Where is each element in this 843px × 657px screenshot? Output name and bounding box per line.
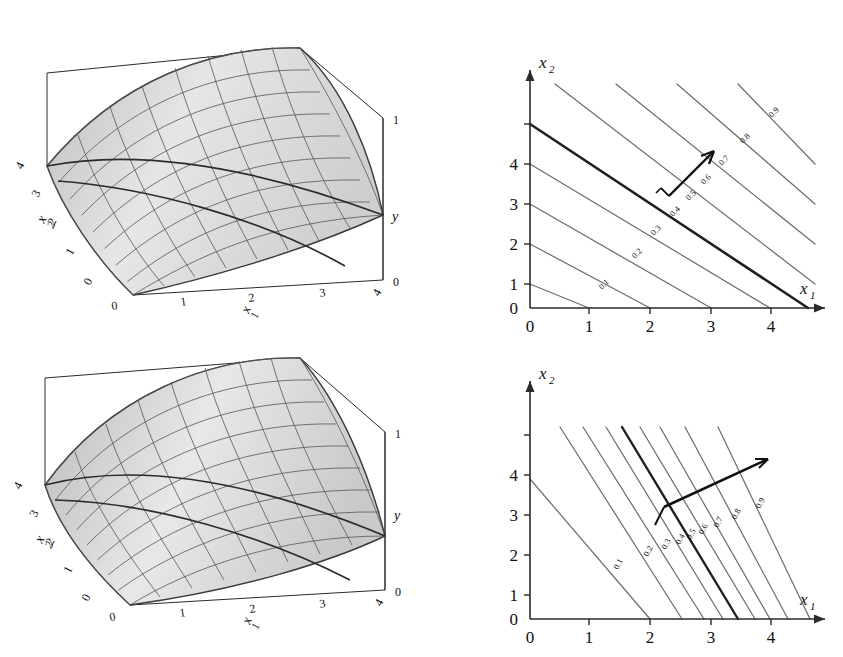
x-ticks-top: 0 1 2 3 4	[526, 317, 776, 336]
y-tick-1-bottom: 1	[395, 427, 401, 441]
y-ticks-top: 0 1 2 3 4	[510, 155, 519, 318]
y-ticks-bottom: 0 1 2 3 4	[510, 466, 519, 629]
x2-tick-4: 4	[12, 160, 27, 172]
contour-bold-05	[530, 124, 808, 308]
x-arrowhead-bottom	[814, 615, 825, 624]
x-axis-label-bottom-c: x	[799, 590, 808, 609]
contour-label-01-bottom: 0.1	[611, 557, 625, 571]
x-axis-label-top: x	[799, 279, 808, 298]
y-axis-label-top: x	[538, 53, 547, 72]
y-arrowhead-top	[526, 70, 535, 81]
surface-plot-bottom: 1 y 0 4 4 3 2 1 0 x 2 0 1 2 3 x 1	[0, 340, 450, 650]
contour-label-07-bottom: 0.7	[711, 515, 725, 529]
surface-plot-top: 1 y 0 4 4 3 2 1 0 x 2 0 1 2 3 x 1	[0, 18, 450, 340]
x1-tick-1: 1	[179, 294, 187, 309]
svg-text:4: 4	[510, 466, 519, 485]
y-axis-label: y	[390, 209, 399, 224]
contour-label-09: 0.9	[766, 105, 781, 120]
x-axis-sub-bottom-c: 1	[810, 600, 816, 612]
surface-mesh-top	[47, 47, 383, 295]
x-ticks-bottom: 0 1 2 3 4	[526, 628, 776, 647]
x2-tick-4-bottom: 4	[10, 480, 25, 492]
contour-label-05-bottom: 0.5	[684, 527, 698, 541]
svg-text:3: 3	[707, 317, 716, 336]
contour-label-07: 0.7	[716, 153, 731, 168]
contour-bottom-svg: 0.1 0.2 0.3 0.4 0.5 0.6 0.7 0.8 0.9 x 1	[470, 335, 843, 647]
y-tick-0-bottom: 0	[395, 585, 401, 599]
x1-tick-2: 2	[247, 290, 255, 305]
svg-text:0: 0	[526, 317, 535, 336]
svg-text:2: 2	[510, 235, 519, 254]
y-arrowhead-bottom	[526, 381, 535, 392]
gradient-arrow-bottom	[655, 459, 768, 525]
svg-text:2: 2	[646, 628, 655, 647]
contour-label-03-bottom: 0.3	[659, 537, 673, 551]
x2-tick-1: 1	[62, 246, 77, 258]
svg-text:2: 2	[646, 317, 655, 336]
x1-tick-1-bottom: 1	[178, 605, 186, 620]
y-tick-1: 1	[393, 113, 399, 127]
svg-text:3: 3	[707, 628, 716, 647]
surface-bottom-svg: 1 y 0 4 4 3 2 1 0 x 2 0 1 2 3 x 1	[0, 340, 450, 650]
svg-text:1: 1	[510, 275, 519, 294]
x1-tick-3: 3	[318, 285, 326, 300]
contour-lines-bottom	[530, 427, 810, 619]
svg-text:4: 4	[510, 155, 519, 174]
x2-tick-1-bottom: 1	[60, 564, 75, 576]
contour-labels-bottom: 0.1 0.2 0.3 0.4 0.5 0.6 0.7 0.8 0.9	[611, 496, 767, 571]
contour-label-03: 0.3	[648, 223, 663, 238]
contour-label-02-bottom: 0.2	[641, 544, 655, 558]
x-arrowhead-top	[814, 304, 825, 313]
x2-tick-0: 0	[80, 276, 95, 288]
y-axis-sub-top: 2	[549, 63, 555, 75]
x1-tick-3-bottom: 3	[318, 596, 326, 611]
svg-text:0: 0	[526, 628, 535, 647]
corner-tick-top: 4	[369, 287, 384, 299]
y-axis-label-bottom-c: x	[538, 364, 547, 383]
contour-label-09-bottom: 0.9	[753, 496, 767, 510]
x1-axis-sub: 1	[248, 310, 261, 319]
contour-label-01: 0.1	[596, 277, 611, 292]
contour-labels-top: 0.1 0.2 0.3 0.4 0.5 0.6 0.7 0.8 0.9	[596, 105, 781, 292]
surface-mesh-bottom	[45, 358, 385, 605]
svg-text:1: 1	[585, 628, 594, 647]
svg-text:0: 0	[510, 299, 519, 318]
y-axis-label-bottom: y	[392, 508, 401, 523]
x-axis-sub-top: 1	[810, 289, 816, 301]
svg-text:4: 4	[767, 317, 776, 336]
y-tick-0: 0	[393, 275, 399, 289]
contour-label-06: 0.6	[698, 172, 713, 187]
svg-text:2: 2	[510, 546, 519, 565]
contour-label-05: 0.5	[683, 188, 698, 203]
svg-text:3: 3	[510, 506, 519, 525]
contour-label-08-bottom: 0.8	[729, 507, 743, 521]
svg-text:4: 4	[767, 628, 776, 647]
x1-tick-0-bottom: 0	[108, 609, 116, 624]
contour-top-svg: 0.1 0.2 0.3 0.4 0.5 0.6 0.7 0.8 0.9	[470, 18, 843, 340]
y-axis-sub-bottom-c: 2	[549, 374, 555, 386]
contour-plot-top: 0.1 0.2 0.3 0.4 0.5 0.6 0.7 0.8 0.9	[470, 18, 843, 340]
svg-text:1: 1	[510, 586, 519, 605]
contour-plot-bottom: 0.1 0.2 0.3 0.4 0.5 0.6 0.7 0.8 0.9 x 1	[470, 335, 843, 647]
surface-top-svg: 1 y 0 4 4 3 2 1 0 x 2 0 1 2 3 x 1	[0, 18, 450, 340]
svg-text:1: 1	[585, 317, 594, 336]
x1-tick-2-bottom: 2	[248, 601, 256, 616]
svg-text:3: 3	[510, 195, 519, 214]
x2-tick-0-bottom: 0	[78, 592, 93, 604]
corner-tick-bottom: 4	[371, 597, 386, 609]
contour-label-02: 0.2	[629, 246, 644, 261]
x1-axis-sub-bottom: 1	[249, 621, 262, 630]
x2-tick-3-bottom: 3	[26, 508, 41, 520]
svg-text:0: 0	[510, 610, 519, 629]
x2-tick-3: 3	[28, 188, 43, 200]
x1-tick-0: 0	[110, 298, 118, 313]
contour-label-08: 0.8	[737, 131, 752, 146]
